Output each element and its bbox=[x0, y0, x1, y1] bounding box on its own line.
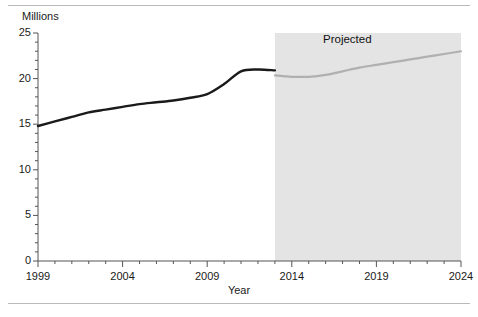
x-tick-label: 2009 bbox=[184, 270, 230, 282]
x-tick-label: 2014 bbox=[269, 270, 315, 282]
x-axis-title: Year bbox=[0, 284, 478, 296]
y-tick-label: 0 bbox=[9, 254, 31, 266]
line-chart-svg bbox=[0, 0, 478, 317]
y-tick-label: 5 bbox=[9, 208, 31, 220]
y-tick-label: 20 bbox=[9, 72, 31, 84]
projected-annotation-label: Projected bbox=[323, 33, 372, 45]
x-tick-label: 2004 bbox=[100, 270, 146, 282]
y-tick-label: 15 bbox=[9, 117, 31, 129]
x-tick-label: 2024 bbox=[438, 270, 478, 282]
chart-plot-area: Millions Year Projected 0510152025 19992… bbox=[0, 0, 478, 317]
x-tick-label: 2019 bbox=[353, 270, 399, 282]
y-tick-label: 25 bbox=[9, 26, 31, 38]
y-axis-title: Millions bbox=[22, 10, 59, 22]
figure-container: Millions Year Projected 0510152025 19992… bbox=[0, 0, 478, 317]
x-tick-label: 1999 bbox=[15, 270, 61, 282]
y-tick-label: 10 bbox=[9, 163, 31, 175]
series-line-actual bbox=[38, 69, 275, 126]
